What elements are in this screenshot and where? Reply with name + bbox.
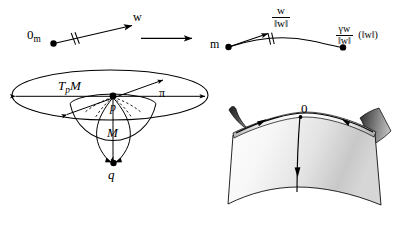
projection-label: π — [159, 87, 165, 99]
point-q-label: q — [108, 168, 115, 181]
vector-w-label: w — [133, 11, 142, 23]
panel-left-tangent-vector — [50, 26, 132, 47]
panel-manifold — [12, 70, 208, 166]
unit-vector-denominator: ‖w‖ — [272, 18, 290, 30]
point-q-dot — [110, 160, 116, 166]
panel-saddle-surface — [228, 106, 391, 205]
endpoint-denominator: ‖w‖ — [336, 36, 353, 47]
point-p-label: p — [110, 101, 116, 113]
manifold-M-label: M — [107, 126, 118, 139]
endpoint-expression: γw ‖w‖ (‖w‖) — [336, 24, 378, 46]
vector-w-arrow — [55, 26, 132, 44]
figure-root: 0m w m w ‖w‖ γw ‖w‖ (‖w‖) TpM π p M q 0 — [0, 0, 412, 230]
origin-label: 0m — [27, 28, 41, 44]
saddle-origin-label: 0 — [301, 102, 308, 115]
endpoint-argument: (‖w‖) — [358, 30, 378, 40]
panel-right-geodesic — [225, 33, 346, 51]
base-point-m-label: m — [210, 38, 219, 50]
unit-vector-numerator: w — [272, 5, 290, 18]
geodesic-curve — [230, 38, 342, 47]
endpoint-numerator: γw — [336, 24, 353, 36]
surface-flap-left — [229, 106, 249, 130]
tangent-space-label: TpM — [58, 79, 81, 95]
base-point-m-dot — [225, 44, 231, 50]
unit-vector-fraction: w ‖w‖ — [272, 5, 290, 29]
